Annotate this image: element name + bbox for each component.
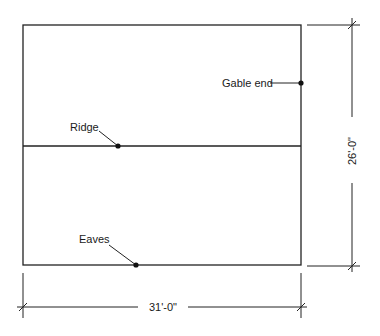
eaves-callout: Eaves xyxy=(79,233,139,268)
eaves-label: Eaves xyxy=(79,233,110,245)
width-dimension: 31'-0" xyxy=(17,273,307,318)
roof-plan-diagram: Ridge Gable end Eaves 26'-0" 31'-0" xyxy=(0,0,380,336)
eaves-point xyxy=(133,262,138,267)
ridge-point xyxy=(115,143,120,148)
gable-end-label: Gable end xyxy=(222,77,273,89)
eaves-leader xyxy=(109,245,136,265)
width-dimension-label: 31'-0" xyxy=(149,301,177,313)
gable-end-callout: Gable end xyxy=(222,77,304,89)
ridge-leader xyxy=(99,131,118,146)
roof-outline xyxy=(23,25,301,265)
height-dimension-label: 26'-0" xyxy=(346,137,358,165)
ridge-callout: Ridge xyxy=(70,121,121,149)
height-dimension: 26'-0" xyxy=(307,18,360,272)
gable-end-point xyxy=(298,80,303,85)
ridge-label: Ridge xyxy=(70,121,99,133)
